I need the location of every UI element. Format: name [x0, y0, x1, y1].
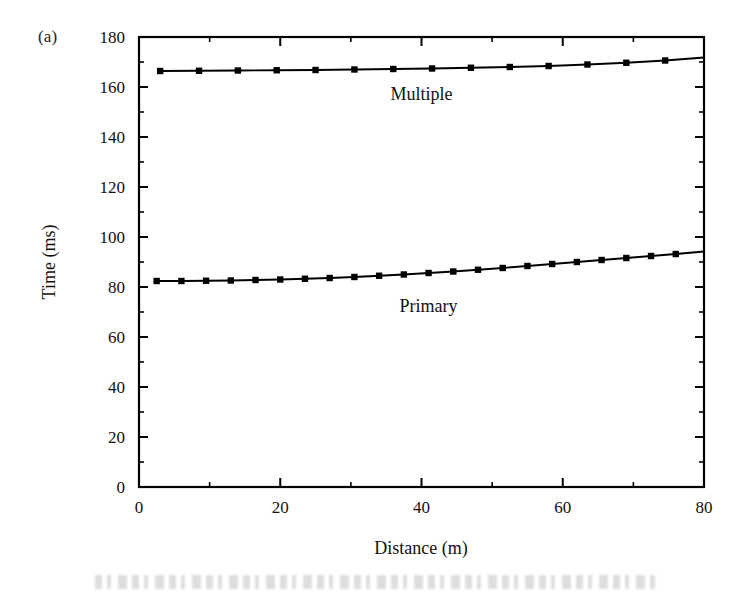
data-point-marker [312, 67, 318, 73]
data-point-marker [235, 67, 241, 73]
data-point-marker [475, 267, 481, 273]
data-point-marker [524, 263, 530, 269]
data-point-marker [648, 253, 654, 259]
x-axis-ticks [139, 37, 704, 487]
data-point-marker [549, 261, 555, 267]
data-point-marker [178, 278, 184, 284]
data-point-marker [401, 271, 407, 277]
data-point-marker [153, 278, 159, 284]
series-annotation-multiple: Multiple [391, 84, 453, 104]
data-point-marker [157, 68, 163, 74]
y-tick-label: 20 [108, 428, 125, 447]
data-point-marker [390, 66, 396, 72]
y-tick-label: 160 [100, 78, 126, 97]
y-tick-label: 140 [100, 128, 126, 147]
x-tick-label: 0 [135, 498, 144, 517]
y-tick-label: 60 [108, 328, 125, 347]
data-point-marker [450, 268, 456, 274]
y-tick-label: 80 [108, 278, 125, 297]
data-point-marker [500, 265, 506, 271]
y-axis-title: Time (ms) [39, 225, 60, 300]
data-point-marker [302, 276, 308, 282]
y-axis-tick-labels: 020406080100120140160180 [100, 28, 126, 497]
data-point-marker [623, 255, 629, 261]
y-tick-label: 120 [100, 178, 126, 197]
data-point-marker [196, 68, 202, 74]
data-point-marker [574, 259, 580, 265]
data-point-marker [351, 274, 357, 280]
data-point-marker [507, 64, 513, 70]
series-line-primary [157, 252, 704, 282]
data-point-marker [376, 273, 382, 279]
y-tick-label: 0 [117, 478, 126, 497]
y-axis-ticks [139, 37, 704, 487]
data-point-marker [274, 67, 280, 73]
data-point-marker [598, 257, 604, 263]
x-tick-label: 20 [272, 498, 289, 517]
figure-panel: (a) 020406080 020406080100120140160180 D… [0, 0, 750, 597]
data-point-marker [468, 65, 474, 71]
data-point-marker [429, 65, 435, 71]
x-tick-label: 40 [413, 498, 430, 517]
data-point-marker [277, 276, 283, 282]
line-chart: 020406080 020406080100120140160180 Dista… [0, 0, 750, 597]
data-point-marker [252, 277, 258, 283]
x-tick-label: 60 [554, 498, 571, 517]
data-point-marker [623, 60, 629, 66]
caption-smudge [95, 575, 655, 589]
data-point-marker [228, 277, 234, 283]
data-point-marker [545, 63, 551, 69]
y-tick-label: 180 [100, 28, 126, 47]
plot-frame [139, 37, 704, 487]
y-tick-label: 40 [108, 378, 125, 397]
data-point-marker [584, 61, 590, 67]
series-annotation-primary: Primary [400, 296, 458, 316]
data-point-marker [351, 66, 357, 72]
x-axis-tick-labels: 020406080 [135, 498, 713, 517]
data-point-marker [425, 270, 431, 276]
data-point-marker [673, 251, 679, 257]
data-point-marker [662, 57, 668, 63]
x-tick-label: 80 [696, 498, 713, 517]
data-point-marker [203, 278, 209, 284]
data-point-marker [326, 275, 332, 281]
y-tick-label: 100 [100, 228, 126, 247]
x-axis-title: Distance (m) [374, 538, 467, 559]
